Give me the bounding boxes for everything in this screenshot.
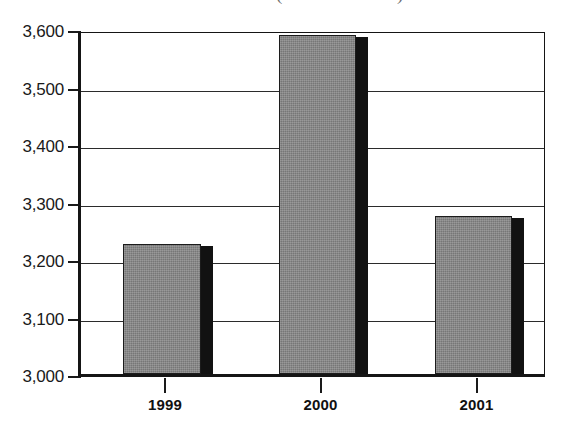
y-axis-label: 3,500: [0, 80, 64, 100]
bar-chart-figure: (million dollars) 3,6003,5003,4003,3003,…: [0, 0, 561, 429]
y-axis-label: 3,300: [0, 195, 64, 215]
y-axis-label: 3,200: [0, 252, 64, 272]
bar-2000: [279, 35, 356, 374]
x-axis-label-2000: 2000: [303, 396, 337, 413]
bar-1999: [123, 244, 201, 374]
bar-fill: [279, 35, 356, 374]
bar-fill: [435, 216, 512, 374]
bar-2001: [435, 216, 512, 374]
chart-title: (million dollars): [276, 0, 403, 5]
bar-fill: [123, 244, 201, 374]
x-axis-label-1999: 1999: [148, 396, 182, 413]
x-axis-label-2001: 2001: [459, 396, 493, 413]
chart-title-clipped: (million dollars): [0, 0, 561, 11]
y-axis-label: 3,400: [0, 137, 64, 157]
plot-area: [78, 32, 545, 377]
bar-shadow: [201, 246, 213, 374]
bar-shadow: [512, 218, 524, 374]
y-axis-label: 3,600: [0, 22, 64, 42]
bar-shadow: [356, 37, 368, 374]
x-axis-tick: [320, 378, 322, 393]
x-axis-tick: [164, 378, 166, 393]
y-axis-label: 3,000: [0, 367, 64, 387]
y-axis-label: 3,100: [0, 310, 64, 330]
x-axis-tick: [476, 378, 478, 393]
